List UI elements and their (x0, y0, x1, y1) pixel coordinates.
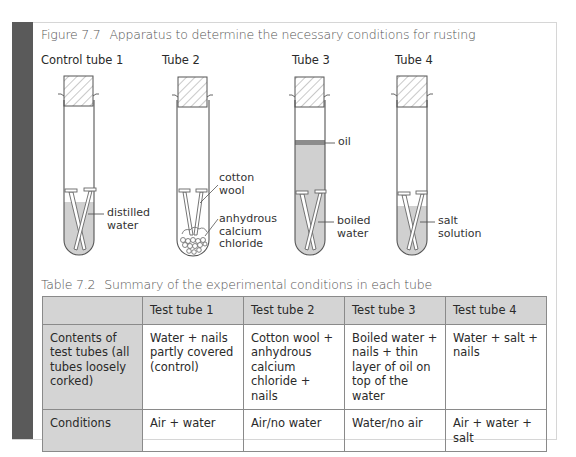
table-cell: Air/no water (244, 410, 345, 452)
label-oil: oil (338, 136, 351, 149)
table-number: Table 7.2 (41, 277, 95, 292)
label-cotton-wool: cotton wool (219, 172, 254, 197)
table-cell: Boiled water + nails + thin layer of oil… (345, 324, 446, 410)
tube-4 (391, 76, 435, 255)
cork-icon (397, 76, 427, 107)
table-row: Conditions Air + water Air/no water Wate… (43, 410, 547, 452)
label-distilled-water: distilled water (107, 207, 150, 232)
table-caption: Table 7.2 Summary of the experimental co… (41, 277, 432, 292)
label-anhydrous-calcium-chloride: anhydrous calcium chloride (219, 213, 277, 251)
table-header-cell: Test tube 3 (345, 297, 446, 325)
table-header-cell: Test tube 4 (446, 297, 547, 325)
oil-layer (295, 140, 325, 145)
table-cell: Water + salt + nails (446, 324, 547, 410)
table-cell: Air + water + salt (446, 410, 547, 452)
tube-3 (289, 77, 335, 255)
tube-2 (172, 77, 218, 256)
row-header-cell: Conditions (43, 410, 143, 452)
label-salt-solution: salt solution (438, 215, 482, 240)
summary-table: Test tube 1 Test tube 2 Test tube 3 Test… (42, 296, 547, 452)
tube-1 (58, 76, 104, 255)
table-cell: Air + water (143, 410, 244, 452)
table-header-cell: Test tube 1 (143, 297, 244, 325)
table-cell: Water + nails partly covered (control) (143, 324, 244, 410)
row-header-cell: Contents of test tubes (all tubes loosel… (43, 324, 143, 410)
table-header-cell (43, 297, 143, 325)
label-boiled-water: boiled water (337, 215, 371, 240)
cork-icon (178, 77, 207, 107)
table-row: Contents of test tubes (all tubes loosel… (43, 324, 547, 410)
table-cell: Water/no air (345, 410, 446, 452)
table-header-cell: Test tube 2 (244, 297, 345, 325)
cork-icon (295, 77, 324, 107)
apparatus-diagram (0, 0, 576, 280)
table-header-row: Test tube 1 Test tube 2 Test tube 3 Test… (43, 297, 547, 325)
cork-icon (64, 76, 93, 106)
table-cell: Cotton wool + anhydrous calcium chloride… (244, 324, 345, 410)
table-title: Summary of the experimental conditions i… (104, 277, 432, 292)
